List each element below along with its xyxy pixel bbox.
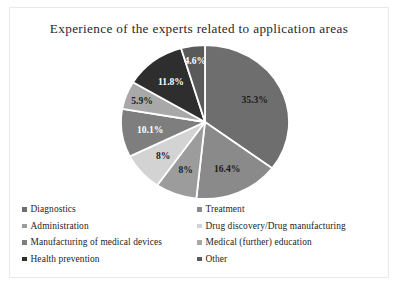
legend-item-label: Other <box>206 254 228 264</box>
legend-item[interactable]: Health prevention <box>22 251 202 268</box>
legend-item[interactable]: Diagnostics <box>22 201 202 218</box>
pie-chart-figure: Experience of the experts related to app… <box>0 0 398 285</box>
pie-slice-label: 8% <box>179 164 193 175</box>
legend-column-right: TreatmentDrug discovery/Drug manufacturi… <box>197 201 377 267</box>
legend-swatch-icon <box>197 257 202 262</box>
pie-svg: 35.3%16.4%8%8%10.1%5.9%11.8%4.6% <box>119 44 291 200</box>
pie-slice-label: 4.6% <box>185 55 207 66</box>
legend-swatch-icon <box>197 240 202 245</box>
legend-item-label: Administration <box>31 221 89 231</box>
legend-item[interactable]: Manufacturing of medical devices <box>22 234 202 251</box>
pie-slice-label: 35.3% <box>241 94 267 105</box>
legend-item[interactable]: Administration <box>22 218 202 235</box>
legend-item-label: Diagnostics <box>31 204 76 214</box>
legend-swatch-icon <box>22 240 27 245</box>
legend-item-label: Treatment <box>206 204 245 214</box>
legend-swatch-icon <box>197 224 202 229</box>
legend-swatch-icon <box>197 207 202 212</box>
legend-item[interactable]: Treatment <box>197 201 377 218</box>
pie-slice-group <box>121 45 289 199</box>
pie-slice-label: 10.1% <box>137 124 163 135</box>
chart-legend: DiagnosticsAdministrationManufacturing o… <box>22 201 382 271</box>
pie-slice-label: 16.4% <box>214 163 240 174</box>
chart-title: Experience of the experts related to app… <box>0 21 398 37</box>
legend-column-left: DiagnosticsAdministrationManufacturing o… <box>22 201 202 267</box>
legend-item[interactable]: Medical (further) education <box>197 234 377 251</box>
pie-slice-label: 11.8% <box>158 76 184 87</box>
legend-item-label: Drug discovery/Drug manufacturing <box>206 221 346 231</box>
legend-swatch-icon <box>22 224 27 229</box>
legend-item[interactable]: Other <box>197 251 377 268</box>
pie-chart-plot: 35.3%16.4%8%8%10.1%5.9%11.8%4.6% <box>119 44 291 200</box>
legend-item[interactable]: Drug discovery/Drug manufacturing <box>197 218 377 235</box>
legend-swatch-icon <box>22 257 27 262</box>
legend-item-label: Manufacturing of medical devices <box>31 237 163 247</box>
pie-slice-label: 8% <box>156 150 170 161</box>
legend-item-label: Health prevention <box>31 254 100 264</box>
legend-item-label: Medical (further) education <box>206 237 312 247</box>
pie-slice-label: 5.9% <box>131 95 153 106</box>
legend-swatch-icon <box>22 207 27 212</box>
